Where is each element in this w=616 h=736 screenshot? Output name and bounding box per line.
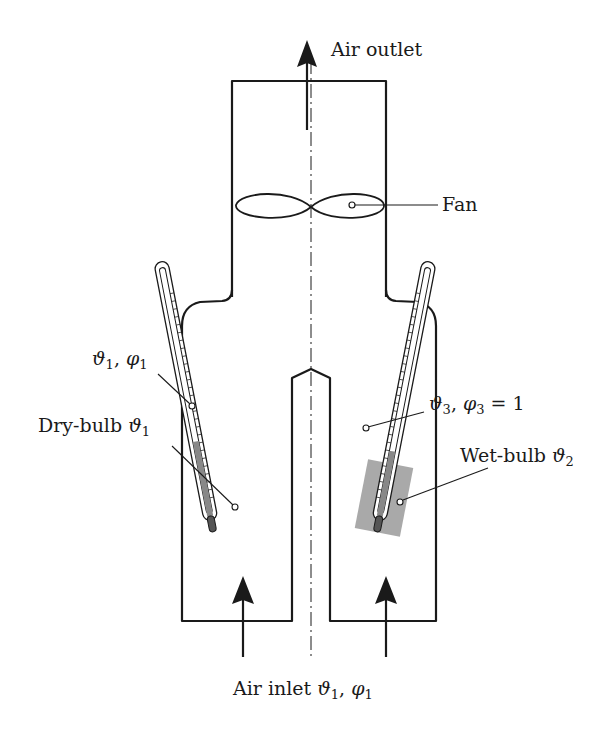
inlet-arrow-right	[375, 576, 397, 657]
dry-bulb-marker	[232, 504, 238, 510]
fan	[236, 194, 438, 218]
outlet-arrow	[297, 40, 317, 130]
fan-label: Fan	[442, 193, 477, 215]
air-outlet-label: Air outlet	[330, 38, 423, 60]
state-1-marker	[189, 403, 195, 409]
air-inlet-label: Air inlet ϑ1, φ1	[232, 677, 373, 702]
wet-bulb-marker	[397, 499, 403, 505]
inlet-arrow-left	[232, 576, 254, 657]
state-3-label: ϑ3, φ3 = 1	[429, 392, 525, 417]
outlet-duct	[232, 81, 386, 297]
state-3-marker	[363, 425, 369, 431]
psychrometer-diagram: Air outlet Fan ϑ1, φ1 Dry-bulb ϑ1 ϑ3, φ3…	[0, 0, 616, 736]
wet-bulb-label: Wet-bulb ϑ2	[460, 444, 574, 469]
housing	[182, 81, 436, 621]
dry-bulb-label: Dry-bulb ϑ1	[38, 414, 150, 439]
state-1-label: ϑ1, φ1	[92, 347, 148, 372]
